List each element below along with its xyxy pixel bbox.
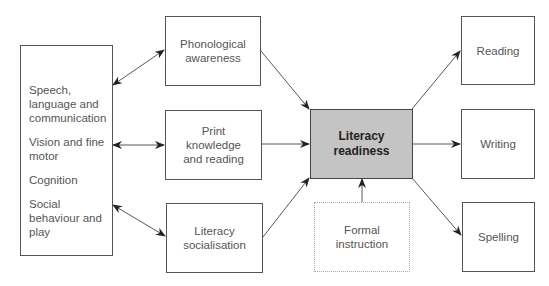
reading-box: Reading xyxy=(461,16,535,85)
print-label: Print knowledge and reading xyxy=(166,124,261,166)
spelling-label: Spelling xyxy=(478,230,519,244)
arrow-socialisation-central xyxy=(263,178,309,237)
writing-box: Writing xyxy=(461,109,535,179)
arrow-central-spelling xyxy=(412,178,461,235)
arrow-phonological-central xyxy=(261,51,309,109)
socialisation-label: Literacy socialisation xyxy=(167,224,262,252)
factors-box: Speech, language and communication Visio… xyxy=(20,45,113,256)
formal-instruction-label: Formal instruction xyxy=(315,223,409,251)
print-box: Print knowledge and reading xyxy=(165,110,262,180)
arrow-factors-phonological xyxy=(113,50,164,85)
writing-label: Writing xyxy=(480,137,516,151)
socialisation-box: Literacy socialisation xyxy=(166,203,263,273)
literacy-readiness-label: Literacy readiness xyxy=(311,129,412,159)
factor-social: Social behaviour and play xyxy=(29,197,112,239)
literacy-readiness-box: Literacy readiness xyxy=(310,109,413,179)
factor-vision: Vision and fine motor xyxy=(29,135,112,163)
phonological-box: Phonological awareness xyxy=(165,16,261,86)
phonological-label: Phonological awareness xyxy=(166,37,260,65)
factor-cognition: Cognition xyxy=(29,173,112,187)
reading-label: Reading xyxy=(477,44,520,58)
factor-speech: Speech, language and communication xyxy=(29,83,112,125)
formal-instruction-box: Formal instruction xyxy=(314,202,410,272)
spelling-box: Spelling xyxy=(462,202,535,272)
arrow-central-reading xyxy=(412,51,460,109)
arrow-factors-socialisation xyxy=(113,205,165,236)
